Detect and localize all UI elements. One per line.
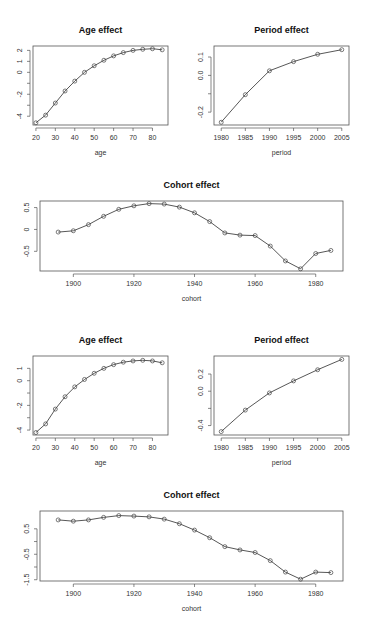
plot-frame bbox=[33, 46, 168, 125]
x-axis-label: cohort bbox=[182, 605, 202, 612]
y-tick-label: 1 bbox=[16, 59, 23, 63]
plot-frame bbox=[40, 511, 343, 581]
x-tick-label: 40 bbox=[71, 444, 79, 451]
y-tick-label: -1.5 bbox=[23, 574, 30, 586]
x-tick-label: 50 bbox=[90, 444, 98, 451]
chart-title: Cohort effect bbox=[164, 180, 220, 190]
chart-period1: Period effect198019851990199520002005per… bbox=[197, 25, 350, 157]
x-tick-label: 1980 bbox=[308, 280, 324, 287]
chart-cohort2: Cohort effect19001920194019601980cohort-… bbox=[23, 490, 343, 612]
x-tick-label: 1995 bbox=[286, 444, 302, 451]
y-tick-label: 1 bbox=[16, 366, 23, 370]
y-tick-label: -4 bbox=[16, 427, 23, 433]
x-tick-label: 2000 bbox=[310, 134, 326, 141]
y-tick-label: -0.5 bbox=[23, 548, 30, 560]
x-axis-label: period bbox=[272, 459, 292, 467]
y-tick-label: 0 bbox=[16, 379, 23, 383]
y-tick-label: 0.1 bbox=[197, 52, 204, 62]
y-tick-label: 0.0 bbox=[197, 386, 204, 396]
x-tick-label: 20 bbox=[32, 134, 40, 141]
y-axis: -4-2012 bbox=[16, 48, 30, 119]
x-tick-label: 1980 bbox=[308, 590, 324, 597]
x-axis-label: age bbox=[95, 459, 107, 467]
x-tick-label: 1990 bbox=[262, 134, 278, 141]
chart-age1: Age effect20304050607080age-4-2012 bbox=[16, 25, 168, 157]
x-tick-label: 40 bbox=[71, 134, 79, 141]
x-tick-label: 1980 bbox=[213, 444, 229, 451]
chart-title: Age effect bbox=[79, 335, 123, 345]
x-tick-label: 20 bbox=[32, 444, 40, 451]
x-axis: 20304050607080 bbox=[32, 128, 156, 141]
chart-cohort1: Cohort effect19001920194019601980cohort-… bbox=[23, 180, 343, 302]
x-axis: 198019851990199520002005 bbox=[213, 128, 349, 141]
y-tick-label: 0 bbox=[23, 227, 30, 231]
x-tick-label: 1995 bbox=[286, 134, 302, 141]
chart-title: Period effect bbox=[254, 25, 309, 35]
x-axis: 19001920194019601980 bbox=[66, 274, 324, 287]
chart-age2: Age effect20304050607080age-4-201 bbox=[16, 335, 168, 467]
chart-title: Period effect bbox=[254, 335, 309, 345]
y-axis: -1.5-0.50.5 bbox=[23, 524, 37, 586]
y-tick-label: 2 bbox=[16, 48, 23, 52]
figure-canvas: Age effect20304050607080age-4-2012Period… bbox=[0, 0, 370, 637]
x-tick-label: 70 bbox=[129, 444, 137, 451]
y-tick-label: 0.5 bbox=[23, 524, 30, 534]
series-line bbox=[221, 50, 342, 123]
x-tick-label: 2005 bbox=[334, 134, 350, 141]
x-axis-label: cohort bbox=[182, 295, 202, 302]
x-tick-label: 1920 bbox=[126, 280, 142, 287]
y-tick-label: 0 bbox=[16, 70, 23, 74]
x-tick-label: 1900 bbox=[66, 590, 82, 597]
x-tick-label: 2005 bbox=[334, 444, 350, 451]
x-tick-label: 1940 bbox=[187, 590, 203, 597]
plot-frame bbox=[214, 46, 349, 125]
y-tick-label: 0.0 bbox=[197, 70, 204, 80]
x-tick-label: 30 bbox=[51, 444, 59, 451]
x-tick-label: 1920 bbox=[126, 590, 142, 597]
x-tick-label: 50 bbox=[90, 134, 98, 141]
x-tick-label: 2000 bbox=[310, 444, 326, 451]
y-tick-label: -4 bbox=[16, 113, 23, 119]
x-tick-label: 60 bbox=[110, 444, 118, 451]
data-point-marker bbox=[34, 431, 38, 435]
x-axis: 19001920194019601980 bbox=[66, 584, 324, 597]
x-axis: 198019851990199520002005 bbox=[213, 438, 349, 451]
x-tick-label: 70 bbox=[129, 134, 137, 141]
series-line bbox=[221, 359, 342, 431]
y-axis: -0.20.00.1 bbox=[197, 52, 211, 118]
chart-title: Age effect bbox=[79, 25, 123, 35]
chart-period2: Period effect198019851990199520002005per… bbox=[197, 335, 350, 467]
y-tick-label: -0.5 bbox=[23, 245, 30, 257]
x-tick-label: 80 bbox=[149, 444, 157, 451]
y-tick-label: -2 bbox=[16, 91, 23, 97]
y-tick-label: -2 bbox=[16, 402, 23, 408]
series-line bbox=[36, 49, 162, 123]
y-tick-label: 0.2 bbox=[197, 369, 204, 379]
x-tick-label: 30 bbox=[51, 134, 59, 141]
y-tick-label: 0.5 bbox=[23, 203, 30, 213]
plot-frame bbox=[33, 356, 168, 435]
x-tick-label: 1960 bbox=[247, 590, 263, 597]
series-line bbox=[58, 204, 331, 269]
x-tick-label: 1985 bbox=[238, 134, 254, 141]
y-tick-label: -0.4 bbox=[197, 419, 204, 431]
x-tick-label: 1960 bbox=[247, 280, 263, 287]
x-axis: 20304050607080 bbox=[32, 438, 156, 451]
plot-frame bbox=[214, 356, 349, 435]
chart-title: Cohort effect bbox=[164, 490, 220, 500]
x-tick-label: 1980 bbox=[213, 134, 229, 141]
y-axis: -4-201 bbox=[16, 366, 30, 433]
y-axis: -0.500.5 bbox=[23, 203, 37, 258]
series-line bbox=[36, 360, 162, 432]
x-axis-label: age bbox=[95, 149, 107, 157]
series-line bbox=[58, 516, 331, 580]
x-tick-label: 1990 bbox=[262, 444, 278, 451]
y-tick-label: -0.2 bbox=[197, 106, 204, 118]
x-axis-label: period bbox=[272, 149, 292, 157]
x-tick-label: 1940 bbox=[187, 280, 203, 287]
x-tick-label: 80 bbox=[149, 134, 157, 141]
x-tick-label: 1900 bbox=[66, 280, 82, 287]
x-tick-label: 60 bbox=[110, 134, 118, 141]
x-tick-label: 1985 bbox=[238, 444, 254, 451]
data-point-marker bbox=[219, 120, 223, 124]
